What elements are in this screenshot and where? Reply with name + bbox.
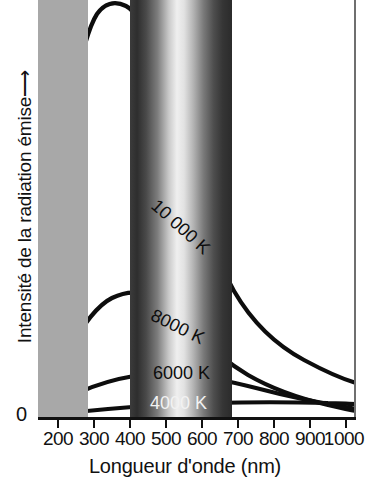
blackbody-radiation-chart: 0 200 300 400 500 600 700 800 900 1000 1…: [0, 0, 370, 489]
plot-area: [38, 0, 356, 418]
curve-label-6000k: 6000 K: [153, 364, 210, 382]
visible-spectrum-band: [130, 0, 232, 418]
x-tick-900: [309, 419, 311, 428]
x-axis-title: Longueur d'onde (nm): [0, 455, 370, 478]
y-axis-title-container: Intensité de la radiation émise⟶: [13, 8, 36, 408]
curve-label-4000k: 4000 K: [150, 394, 207, 412]
x-tick-label-1000: 1000: [322, 428, 366, 450]
x-tick-300: [93, 419, 95, 428]
x-tick-200: [57, 419, 59, 428]
x-tick-400: [129, 419, 131, 428]
y-axis-title-text: Intensité de la radiation émise: [14, 97, 35, 343]
x-tick-1000: [345, 419, 347, 428]
x-tick-500: [165, 419, 167, 428]
x-tick-600: [201, 419, 203, 428]
up-arrow-icon: ⟶: [14, 72, 35, 97]
y-axis-zero-label: 0: [16, 404, 27, 424]
ultraviolet-band: [38, 0, 88, 418]
plot-right-border: [354, 0, 356, 418]
x-tick-700: [237, 419, 239, 428]
curve-label-4000k-text: 4000 K: [150, 393, 207, 413]
y-axis-title: Intensité de la radiation émise⟶: [14, 72, 35, 343]
x-tick-800: [273, 419, 275, 428]
